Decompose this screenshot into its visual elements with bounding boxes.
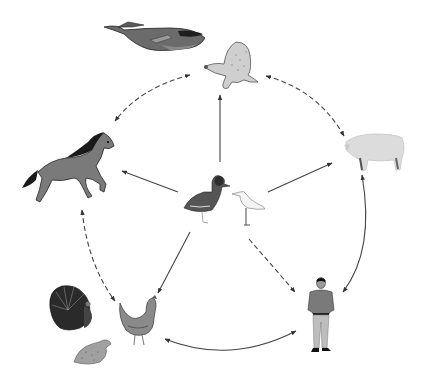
shorebird-icon xyxy=(232,191,265,225)
human-icon xyxy=(308,278,334,353)
arrow-birds-to-pig xyxy=(268,163,332,192)
quail-icon xyxy=(74,340,111,364)
arrow-birds-to-horse xyxy=(122,171,178,192)
chicken-icon xyxy=(120,295,157,345)
whale-icon xyxy=(104,22,205,51)
horse-icon xyxy=(22,132,114,202)
arrow-seal-horse xyxy=(115,75,190,121)
arrow-poultry-human xyxy=(165,331,296,350)
turkey-icon xyxy=(50,286,92,330)
seal-icon xyxy=(204,42,258,89)
arrow-seal-pig xyxy=(266,76,344,136)
arrow-horse-poultry xyxy=(82,210,115,301)
arrow-pig-human xyxy=(343,175,366,292)
arrow-birds-to-human xyxy=(249,239,295,292)
transmission-diagram xyxy=(0,0,426,380)
arrow-birds-to-poultry xyxy=(158,232,190,293)
pig-icon xyxy=(344,134,404,171)
diagram-canvas xyxy=(0,0,426,380)
duck-icon xyxy=(184,176,230,223)
